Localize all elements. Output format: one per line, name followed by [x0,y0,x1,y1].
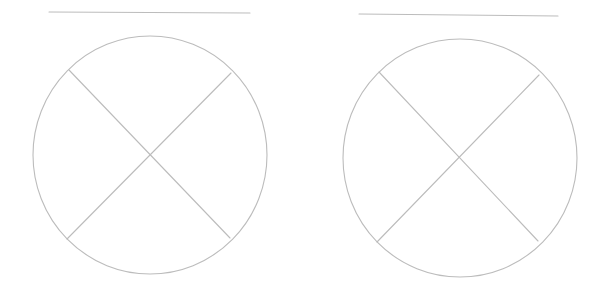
top-line-left [49,12,250,13]
diagram-canvas [0,0,601,289]
diagram-svg [0,0,601,289]
crossed-circle-right [343,14,577,277]
crossed-circle-left [33,12,267,274]
top-line-right [359,14,558,16]
